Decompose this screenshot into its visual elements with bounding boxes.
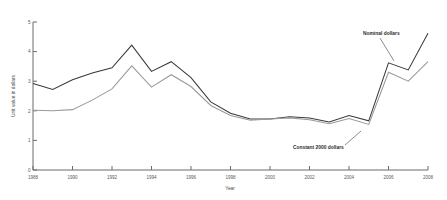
x-axis-ticks: 1988199019921994199619982000200220042006… [28, 166, 434, 180]
x-tick-label: 2006 [383, 175, 394, 180]
x-tick-label: 1994 [146, 175, 157, 180]
chart-annotations: Nominal dollarsConstant 2000 dollars [293, 31, 400, 150]
x-tick-label: 1990 [67, 175, 78, 180]
x-tick-label: 2002 [304, 175, 315, 180]
x-tick-label: 1998 [225, 175, 236, 180]
y-axis-ticks: 012345 [28, 20, 37, 173]
x-tick-label: 1988 [28, 175, 39, 180]
y-tick-label: 5 [28, 20, 31, 25]
x-tick-label: 2000 [265, 175, 276, 180]
x-tick-label: 1996 [186, 175, 197, 180]
annotation-leader-line [380, 38, 394, 61]
annotation-label: Constant 2000 dollars [293, 145, 344, 150]
y-tick-label: 4 [28, 49, 31, 54]
y-tick-label: 0 [28, 168, 31, 173]
x-axis-title: Year [225, 186, 235, 191]
y-tick-label: 2 [28, 109, 31, 114]
y-axis-title: Unit value in dollars [11, 74, 16, 116]
x-tick-label: 2004 [344, 175, 355, 180]
y-tick-label: 1 [28, 138, 31, 143]
annotation-leader-line [345, 131, 361, 145]
x-tick-label: 1992 [107, 175, 118, 180]
plot-axes [33, 22, 428, 170]
annotation-label: Nominal dollars [363, 31, 400, 36]
chart-page: 012345 198819901992199419961998200020022… [0, 0, 447, 200]
line-chart: 012345 198819901992199419961998200020022… [0, 0, 447, 200]
y-tick-label: 3 [28, 79, 31, 84]
data-series-group [33, 33, 428, 124]
series-line-constant-2000-dollars [33, 62, 428, 125]
x-tick-label: 2008 [423, 175, 434, 180]
series-line-nominal-dollars [33, 33, 428, 122]
